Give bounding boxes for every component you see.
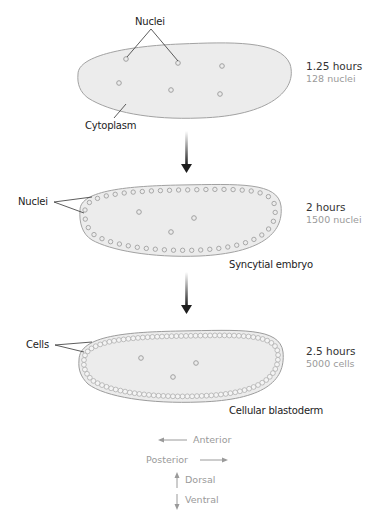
embryo-stage-2: [54, 184, 281, 256]
nuclei-label-stage-1: Nuclei: [135, 16, 165, 27]
cytoplasm-label: Cytoplasm: [85, 120, 136, 131]
embryo-stage-1: [78, 29, 292, 118]
posterior-label: Posterior: [146, 454, 188, 465]
stage-2-time: 2 hours: [306, 201, 346, 213]
stage-3-count: 5000 cells: [306, 358, 355, 369]
cells-label: Cells: [26, 339, 49, 350]
stage-3-time: 2.5 hours: [306, 345, 356, 357]
stage-2-count: 1500 nuclei: [306, 214, 362, 225]
dorsal-label: Dorsal: [185, 474, 215, 485]
stage-1-count: 128 nuclei: [306, 73, 356, 84]
arrow-down-icon: [181, 131, 192, 173]
arrow-down-icon: [181, 272, 192, 314]
stage-1-time: 1.25 hours: [306, 60, 362, 72]
embryo-stage-3: [55, 330, 283, 402]
cellular-blastoderm-caption: Cellular blastoderm: [229, 405, 323, 416]
syncytial-embryo-caption: Syncytial embryo: [229, 259, 313, 270]
ventral-label: Ventral: [185, 494, 219, 505]
anterior-label: Anterior: [193, 434, 231, 445]
nuclei-label-stage-2: Nuclei: [18, 196, 48, 207]
